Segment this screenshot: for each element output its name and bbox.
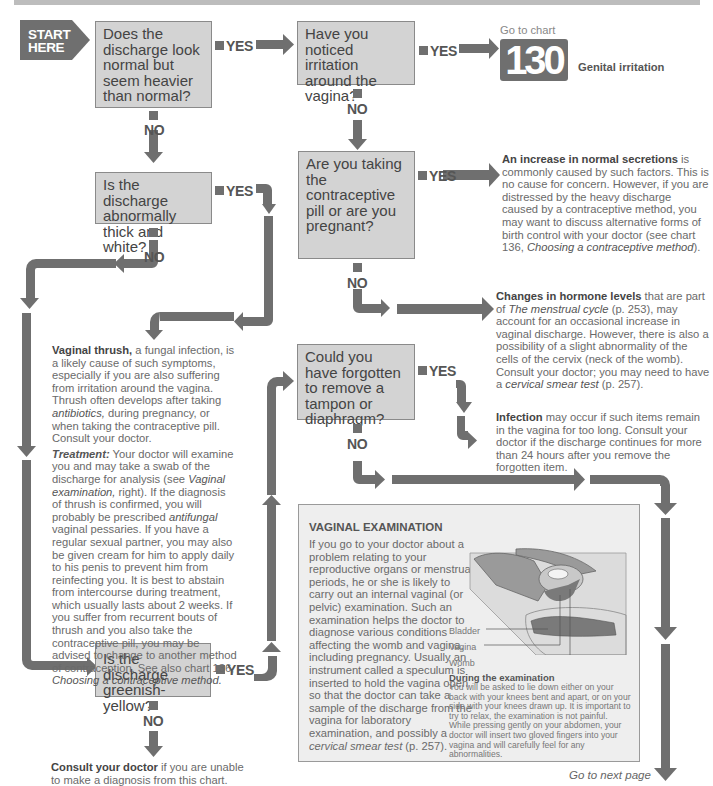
q5-no-marker: [353, 424, 362, 433]
q2-no-marker: [353, 89, 362, 98]
q3-no-label: NO: [347, 275, 367, 291]
outcome-consult-doctor: Consult your doctor if you are unable to…: [51, 761, 251, 786]
q5-no-label: NO: [347, 436, 367, 452]
q2-no-label: NO: [347, 101, 367, 117]
q6-no-marker: [149, 701, 158, 710]
label-vagina: Vagina: [449, 642, 476, 652]
start-label: START HERE: [28, 28, 71, 54]
pelvic-exam-illustration: [456, 545, 633, 655]
goto-chart-prefix: Go to chart: [500, 24, 555, 37]
question-q3: Are you taking the contraceptive pill or…: [298, 151, 415, 259]
vaginal-examination-panel: VAGINAL EXAMINATION If you go to your do…: [298, 504, 640, 762]
label-womb: Womb: [449, 658, 475, 668]
q6-no-label: NO: [143, 713, 163, 729]
go-to-next-page[interactable]: Go to next page: [569, 769, 651, 782]
q2-yes-label: YES: [419, 43, 457, 59]
during-exam-text: You will be asked to lie down either on …: [449, 683, 631, 760]
panel-title: VAGINAL EXAMINATION: [309, 521, 443, 533]
question-q5: Could you have forgotten to remove a tam…: [297, 344, 415, 420]
q3-yes-label: YES: [418, 168, 456, 184]
q1-yes-label: YES: [215, 38, 253, 54]
q1-no-marker: [149, 111, 158, 120]
outcome-infection: Infection may occur if such items remain…: [496, 411, 710, 474]
q1-no-label: NO: [144, 122, 164, 138]
label-bladder: Bladder: [449, 626, 480, 636]
outcome-hormone-levels: Changes in hormone levels that are part …: [496, 290, 710, 391]
q4-no-label: NO: [144, 249, 164, 265]
outcome-vaginal-thrush: Vaginal thrush, a fungal infection, is a…: [52, 344, 237, 687]
q3-no-marker: [353, 263, 362, 272]
chart-130-title[interactable]: Genital irritation: [578, 61, 664, 74]
question-q4: Is the discharge abnormally thick and wh…: [95, 172, 212, 224]
q4-no-marker: [149, 228, 158, 237]
question-q1: Does the discharge look normal but seem …: [95, 21, 212, 108]
question-q2: Have you noticed irritation around the v…: [297, 21, 415, 85]
q4-yes-label: YES: [215, 183, 253, 199]
q5-yes-label: YES: [418, 363, 456, 379]
chart-130-badge[interactable]: 130: [500, 39, 568, 81]
outcome-normal-secretions: An increase in normal secretions is comm…: [502, 153, 710, 254]
